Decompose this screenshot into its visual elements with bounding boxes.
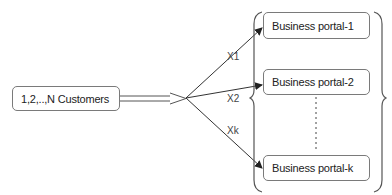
portal-node-1: Business portal-1 (263, 12, 370, 39)
customers-node: 1,2,..,N Customers (12, 86, 120, 111)
edge-label-xk: Xk (227, 125, 239, 136)
portal-node-k: Business portal-k (263, 155, 370, 181)
left-brace (250, 12, 262, 192)
edge-label-x1: X1 (227, 51, 239, 62)
double-arrow (120, 93, 186, 104)
portal-label-1: Business portal-1 (272, 20, 354, 32)
portal-label-2: Business portal-2 (272, 76, 354, 88)
edge-xk (186, 98, 262, 168)
edge-x1 (186, 28, 262, 98)
portal-label-k: Business portal-k (272, 162, 353, 174)
right-brace (374, 12, 386, 192)
edge-label-x2: X2 (227, 93, 239, 104)
customers-label: 1,2,..,N Customers (21, 93, 109, 105)
portal-node-2: Business portal-2 (263, 69, 370, 95)
